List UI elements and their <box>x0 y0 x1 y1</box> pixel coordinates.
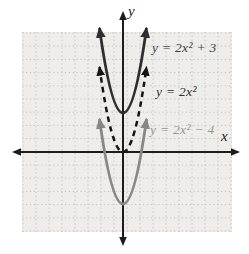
graph-figure: y = 2x² + 3 y = 2x² y = 2x² − 4 y x <box>0 0 249 254</box>
x-axis-label: x <box>221 128 228 144</box>
equation-label-shift-up: y = 2x² + 3 <box>152 40 217 56</box>
x-axis-left-arrow-icon <box>12 148 21 156</box>
y-axis-label: y <box>128 3 135 19</box>
y-axis-bottom-arrow-icon <box>119 237 127 246</box>
y-axis-top-arrow-icon <box>119 11 127 20</box>
equation-label-shift-down: y = 2x² − 4 <box>150 122 215 138</box>
equation-label-base: y = 2x² <box>156 84 197 100</box>
x-axis-right-arrow-icon <box>231 148 240 156</box>
